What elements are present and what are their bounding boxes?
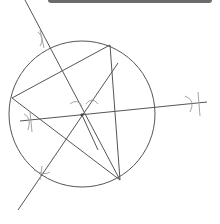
bisector-line [18,63,118,210]
compass-arc [38,32,42,46]
construction-diagram [0,0,220,224]
bisector-line [25,0,120,180]
compass-arc [30,112,32,132]
bisector-line [82,115,98,150]
bisector-line [20,102,207,121]
compass-arc [24,114,29,130]
center-point [81,114,83,116]
compass-arc [198,92,200,116]
